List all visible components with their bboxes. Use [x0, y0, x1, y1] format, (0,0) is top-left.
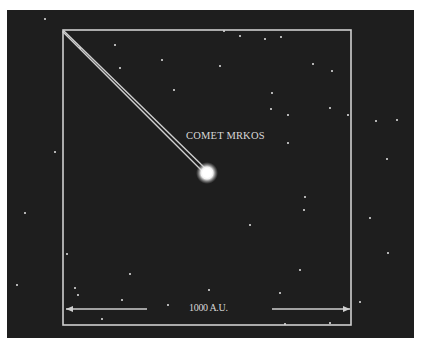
star — [312, 63, 314, 65]
star — [287, 114, 289, 116]
star — [173, 89, 175, 91]
star — [359, 301, 361, 303]
comet-head — [202, 168, 212, 178]
star — [101, 318, 103, 320]
star — [270, 108, 272, 110]
star — [74, 287, 76, 289]
star — [121, 299, 123, 301]
star — [54, 151, 56, 153]
star — [264, 38, 266, 40]
star — [249, 224, 251, 226]
comet-name-label: COMET MRKOS — [186, 130, 265, 141]
star — [386, 158, 388, 160]
star — [329, 107, 331, 109]
star — [129, 273, 131, 275]
star — [299, 269, 301, 271]
star — [375, 120, 377, 122]
star — [239, 35, 241, 37]
star — [331, 70, 333, 72]
star — [167, 304, 169, 306]
star — [279, 292, 281, 294]
star — [280, 36, 282, 38]
star — [303, 209, 305, 211]
star — [161, 59, 163, 61]
star — [114, 44, 116, 46]
star — [24, 212, 26, 214]
star — [119, 67, 121, 69]
star — [369, 217, 371, 219]
star — [44, 18, 46, 20]
star — [304, 196, 306, 198]
star — [387, 252, 389, 254]
diagram-canvas — [0, 0, 421, 344]
star — [329, 322, 331, 324]
star — [208, 289, 210, 291]
comet-scale-diagram: COMET MRKOS 1000 A.U. — [0, 0, 421, 344]
star — [287, 142, 289, 144]
scale-bar-label: 1000 A.U. — [189, 302, 228, 313]
star — [77, 294, 79, 296]
star — [396, 119, 398, 121]
star — [66, 253, 68, 255]
star — [16, 284, 18, 286]
star — [271, 92, 273, 94]
star — [219, 65, 221, 67]
star — [347, 114, 349, 116]
